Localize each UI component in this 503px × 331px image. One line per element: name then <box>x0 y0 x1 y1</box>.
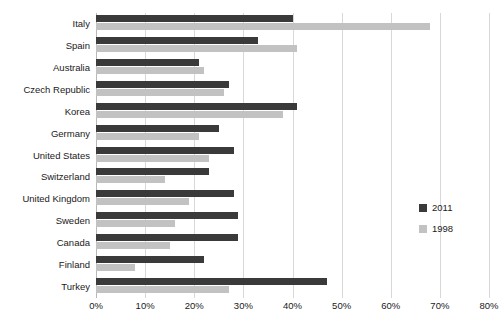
bar-2011 <box>96 234 238 241</box>
y-axis-label-spain: Spain <box>0 35 90 57</box>
chart-legend: 20111998 <box>419 200 453 242</box>
bar-row <box>96 79 489 101</box>
y-axis-label-germany: Germany <box>0 123 90 145</box>
bar-2011 <box>96 147 234 154</box>
gridline-80 <box>489 13 490 298</box>
bar-2011 <box>96 103 297 110</box>
y-axis-label-united-kingdom: United Kingdom <box>0 188 90 210</box>
bar-1998 <box>96 111 283 118</box>
bar-1998 <box>96 67 204 74</box>
bar-1998 <box>96 242 170 249</box>
bar-2011 <box>96 256 204 263</box>
bar-1998 <box>96 264 135 271</box>
bar-row <box>96 166 489 188</box>
legend-entry: 2011 <box>419 200 453 215</box>
bar-row <box>96 254 489 276</box>
bar-1998 <box>96 23 430 30</box>
bar-row <box>96 276 489 298</box>
bar-chart: ItalySpainAustraliaCzech RepublicKoreaGe… <box>0 0 503 331</box>
legend-swatch-icon <box>419 204 427 212</box>
bar-2011 <box>96 212 238 219</box>
x-tick-label: 70% <box>430 300 449 311</box>
y-axis-label-turkey: Turkey <box>0 276 90 298</box>
legend-label: 2011 <box>432 202 452 213</box>
legend-label: 1998 <box>432 223 453 234</box>
y-axis-label-czech-republic: Czech Republic <box>0 79 90 101</box>
bar-1998 <box>96 198 189 205</box>
y-axis-label-italy: Italy <box>0 13 90 35</box>
bar-1998 <box>96 89 224 96</box>
bar-row <box>96 35 489 57</box>
bar-2011 <box>96 190 234 197</box>
bar-1998 <box>96 45 297 52</box>
plot-area <box>96 13 489 298</box>
legend-swatch-icon <box>419 225 427 233</box>
x-tick-label: 30% <box>234 300 253 311</box>
y-axis-label-australia: Australia <box>0 57 90 79</box>
x-axis-tick-labels: 0%10%20%30%40%50%60%70%80% <box>96 300 489 316</box>
bar-1998 <box>96 286 229 293</box>
x-tick-label: 80% <box>479 300 498 311</box>
x-tick-label: 40% <box>283 300 302 311</box>
bar-rows <box>96 13 489 298</box>
y-axis-label-united-states: United States <box>0 145 90 167</box>
x-tick-label: 10% <box>136 300 155 311</box>
bar-2011 <box>96 81 229 88</box>
y-axis-label-korea: Korea <box>0 101 90 123</box>
y-axis-label-finland: Finland <box>0 254 90 276</box>
y-axis-label-sweden: Sweden <box>0 210 90 232</box>
bar-row <box>96 13 489 35</box>
bar-2011 <box>96 125 219 132</box>
x-tick-label: 20% <box>185 300 204 311</box>
bar-2011 <box>96 15 293 22</box>
y-axis-label-canada: Canada <box>0 232 90 254</box>
bar-row <box>96 123 489 145</box>
bar-1998 <box>96 155 209 162</box>
legend-entry: 1998 <box>419 221 453 236</box>
bar-row <box>96 101 489 123</box>
x-tick-label: 0% <box>89 300 103 311</box>
bar-1998 <box>96 133 199 140</box>
y-axis-label-switzerland: Switzerland <box>0 166 90 188</box>
bar-1998 <box>96 176 165 183</box>
x-tick-label: 50% <box>332 300 351 311</box>
bar-2011 <box>96 59 199 66</box>
bar-2011 <box>96 168 209 175</box>
bar-1998 <box>96 220 175 227</box>
bar-row <box>96 145 489 167</box>
bar-2011 <box>96 278 327 285</box>
y-axis-category-labels: ItalySpainAustraliaCzech RepublicKoreaGe… <box>0 13 90 298</box>
bar-row <box>96 57 489 79</box>
x-tick-label: 60% <box>381 300 400 311</box>
bar-2011 <box>96 37 258 44</box>
